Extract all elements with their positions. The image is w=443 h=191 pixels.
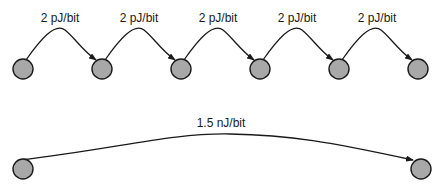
hop-arrow-5 [342,28,412,60]
short-hop-nodes [13,59,428,79]
node [329,59,349,79]
hop-arrow-1 [26,28,96,60]
hop-label-4: 2 pJ/bit [278,11,317,25]
hop-label-3: 2 pJ/bit [199,11,238,25]
short-hop-arrows [26,28,412,60]
energy-per-bit-diagram: 2 pJ/bit 2 pJ/bit 2 pJ/bit 2 pJ/bit 2 pJ… [0,0,443,191]
long-hop-label: 1.5 nJ/bit [197,116,246,130]
long-hop-nodes [13,159,431,179]
node [250,59,270,79]
diagram-graphics [0,0,443,191]
node [408,59,428,79]
node [411,159,431,179]
node [13,159,33,179]
hop-arrow-4 [263,28,333,60]
hop-label-1: 2 pJ/bit [41,11,80,25]
node [13,59,33,79]
node [92,59,112,79]
long-hop-arrow [20,134,413,160]
hop-label-2: 2 pJ/bit [120,11,159,25]
node [171,59,191,79]
hop-label-5: 2 pJ/bit [358,11,397,25]
hop-arrow-2 [105,28,175,60]
hop-arrow-3 [184,28,254,60]
